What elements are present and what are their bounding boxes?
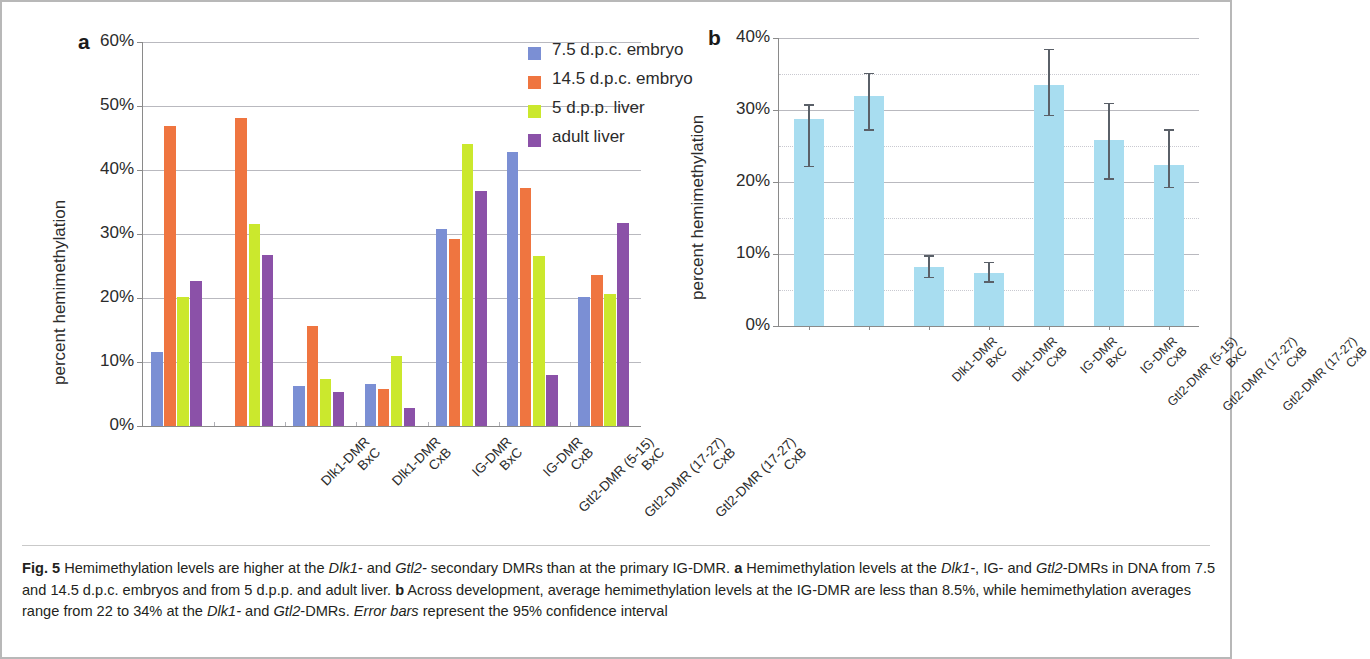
panel-a-y-axis-label: percent hemimethylation [50,200,70,385]
error-bar-line-1 [808,104,809,166]
gridline-30 [779,110,1199,111]
caption-run-15: Dlk1- [207,603,241,619]
panel-b: b percent hemimethylation 0%10%20%30%40%… [660,0,1232,545]
error-bar-cap-upper-4 [984,262,994,263]
caption-run-20: represent the 95% confidence interval [419,603,668,619]
group-separator-1 [214,422,215,426]
caption-run-2: Hemimethylation levels are higher at the [60,560,329,576]
gridline-40 [143,170,641,171]
error-bar-cap-lower-2 [864,129,874,130]
panel-b-plot-area [778,38,1199,327]
bar-7-5-d-p-c-embryo-group-1 [151,352,163,426]
bar-7-5-d-p-c-embryo-group-4 [365,384,377,426]
bar-7 [1154,165,1184,326]
bar-adult-liver-group-5 [475,191,487,426]
bar-14-5-d-p-c-embryo-group-7 [591,275,603,426]
panel-a-ytick-20: 20% [82,287,134,307]
bar-14-5-d-p-c-embryo-group-2 [235,118,247,426]
bar-adult-liver-group-3 [333,392,345,426]
group-separator-3 [356,422,357,426]
caption-run-5: Gtl2- [395,560,427,576]
caption-run-3: Dlk1- [329,560,363,576]
bar-adult-liver-group-6 [546,375,558,426]
bar-5-d-p-p-liver-group-6 [533,256,545,426]
bar-7-5-d-p-c-embryo-group-5 [436,229,448,426]
panel-a: a percent hemimethylation 0%10%20%30%40%… [0,0,660,545]
error-bar-line-7 [1168,129,1169,187]
bar-7-5-d-p-c-embryo-group-6 [507,152,519,426]
panel-b-xtick-7 [1169,326,1170,330]
bar-adult-liver-group-1 [190,281,202,426]
panel-b-xtick-3 [929,326,930,330]
bar-5-d-p-p-liver-group-1 [177,297,189,426]
caption-run-16: and [241,603,273,619]
error-bar-cap-lower-7 [1164,187,1174,188]
panel-b-ytick-40: 40% [716,27,770,47]
error-bar-cap-lower-6 [1104,178,1114,179]
bar-adult-liver-group-4 [404,408,416,426]
bar-5 [1034,85,1064,326]
bar-5-d-p-p-liver-group-3 [320,379,332,426]
error-bar-cap-upper-3 [924,255,934,256]
panel-a-ytick-0: 0% [82,415,134,435]
error-bar-cap-lower-4 [984,281,994,282]
error-bar-line-4 [988,262,989,281]
bar-14-5-d-p-c-embryo-group-6 [520,188,532,426]
minor-gridline-25 [779,146,1199,147]
panel-b-ytick-30: 30% [716,99,770,119]
panel-b-xtick-6 [1109,326,1110,330]
bar-14-5-d-p-c-embryo-group-5 [449,239,461,426]
panel-b-ytick-0: 0% [716,315,770,335]
bar-7-5-d-p-c-embryo-group-3 [293,386,305,426]
bar-14-5-d-p-c-embryo-group-4 [378,389,390,426]
panel-b-xtick-4 [989,326,990,330]
group-separator-4 [428,422,429,426]
bar-5-d-p-p-liver-group-7 [604,294,616,426]
panel-b-xtick-5 [1049,326,1050,330]
panel-b-xtick-2 [869,326,870,330]
caption-run-9: Dlk1- [941,560,975,576]
caption-run-13: b [395,582,404,598]
legend-label-4: adult liver [552,127,625,147]
panel-b-y-axis-label: percent hemimethylation [688,115,708,300]
bar-14-5-d-p-c-embryo-group-1 [164,126,176,426]
group-separator-6 [570,422,571,426]
error-bar-cap-upper-1 [804,104,814,105]
caption-run-18: -DMRs. [300,603,354,619]
error-bar-line-5 [1048,49,1049,115]
bar-5-d-p-p-liver-group-4 [391,356,403,426]
gridline-20 [143,298,641,299]
panel-b-ytick-10: 10% [716,243,770,263]
error-bar-cap-upper-2 [864,73,874,74]
bar-5-d-p-p-liver-group-5 [462,144,474,426]
error-bar-cap-lower-3 [924,277,934,278]
panel-a-ytick-60: 60% [82,31,134,51]
gridline-40 [779,38,1199,39]
caption-run-19: Error bars [354,603,419,619]
legend-swatch-3 [528,105,541,118]
error-bar-line-6 [1108,103,1109,179]
group-separator-5 [499,422,500,426]
panel-b-xlabel-1-line-1: Dlk1-DMR [870,334,1000,464]
caption-run-10: , IG- and [975,560,1036,576]
gridline-20 [779,182,1199,183]
caption-run-8: Hemimethylation levels at the [742,560,941,576]
panel-a-ytick-30: 30% [82,223,134,243]
bar-adult-liver-group-7 [617,223,629,426]
error-bar-cap-upper-7 [1164,129,1174,130]
error-bar-cap-lower-5 [1044,115,1054,116]
minor-gridline-35 [779,74,1199,75]
panel-b-ytick-20: 20% [716,171,770,191]
panel-a-ytick-10: 10% [82,351,134,371]
error-bar-cap-lower-1 [804,166,814,167]
caption-run-1: Fig. 5 [22,560,60,576]
caption-run-11: Gtl2 [1036,560,1063,576]
bar-14-5-d-p-c-embryo-group-3 [307,326,319,426]
legend-swatch-4 [528,134,541,147]
error-bar-cap-upper-5 [1044,49,1054,50]
error-bar-line-2 [868,73,869,130]
gridline-10 [779,254,1199,255]
legend-swatch-2 [528,76,541,89]
caption-run-17: Gtl2 [274,603,301,619]
